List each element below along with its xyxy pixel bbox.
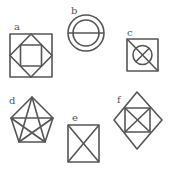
diamond-shape <box>10 34 52 77</box>
panel-a-label: a <box>14 21 20 32</box>
pentagon-shape <box>11 97 53 142</box>
panel-c-label: c <box>127 27 133 38</box>
panel-a: a <box>10 21 52 77</box>
panel-d-label: d <box>9 95 16 106</box>
inner-square-shape <box>21 45 42 66</box>
panel-e: e <box>68 112 99 162</box>
figure-canvas: a b c d e f <box>0 0 172 169</box>
panel-b: b <box>68 5 104 51</box>
panel-d: d <box>9 95 53 142</box>
panel-e-label: e <box>72 112 78 123</box>
outer-square-shape <box>10 34 52 77</box>
panel-f-label: f <box>117 94 122 105</box>
panel-c: c <box>127 27 158 71</box>
panel-f: f <box>114 92 162 149</box>
panel-b-label: b <box>71 5 77 16</box>
